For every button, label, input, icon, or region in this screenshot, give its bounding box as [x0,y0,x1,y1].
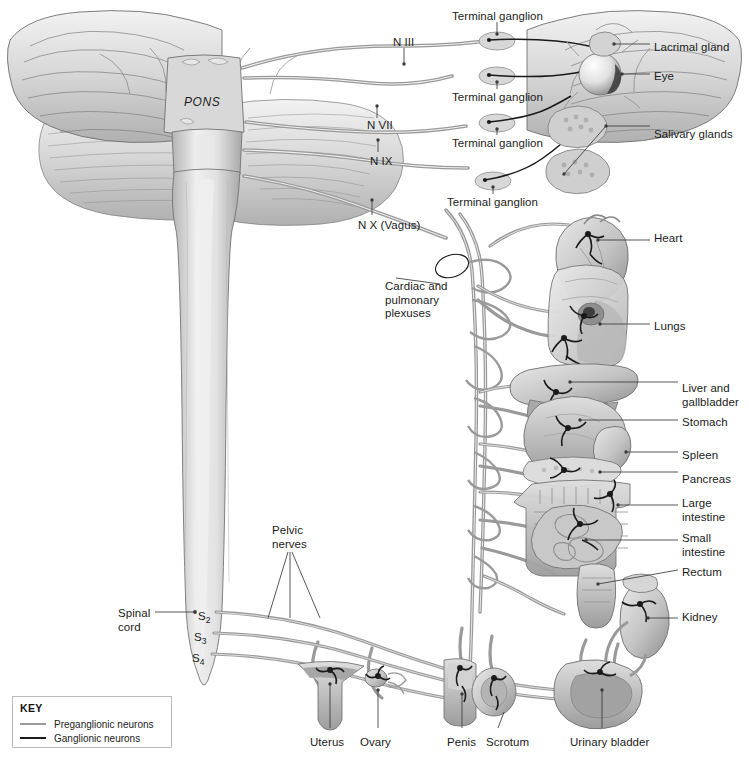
pons-label: PONS [184,96,220,110]
large-intestine-label: Large intestine [682,497,725,524]
ganglion-dots [483,38,491,182]
terminal-ganglion-label-2: Terminal ganglion [452,137,543,151]
key-legend: KEY Preganglionic neurons Ganglionic neu… [12,696,172,748]
brain-illustration [7,11,741,226]
salivary-glands-label: Salivary glands [654,128,733,142]
cranial-nerve-label-2: N IX [370,155,393,169]
spleen-label: Spleen [682,449,718,463]
ovary-label: Ovary [360,736,391,750]
spinal-segment-S3: S3 [194,631,207,649]
terminal-ganglion-label-3: Terminal ganglion [447,196,538,210]
preganglionic-label: Preganglionic neurons [54,719,154,730]
urinary-bladder-label: Urinary bladder [570,736,649,750]
ganglionic-label: Ganglionic neurons [54,733,140,744]
heart-label: Heart [654,232,682,246]
ovary-illustration [365,669,406,694]
rectum-illustration [577,564,616,628]
salivary-glands-illustration [546,106,610,194]
terminal-ganglia [475,32,515,190]
scrotum-label: Scrotum [486,736,529,750]
small-intestine-label: Small intestine [682,532,725,559]
cranial-nerve-label-1: N VII [367,119,393,133]
rectum-label: Rectum [682,566,722,580]
terminal-ganglion-label-1: Terminal ganglion [452,91,543,105]
lungs-label: Lungs [654,320,686,334]
terminal-ganglion-label-0: Terminal ganglion [452,10,543,24]
liver-gallbladder-label: Liver and gallbladder [682,382,739,409]
vagus-trunk [446,210,486,668]
eye-label: Eye [654,70,674,84]
key-entry-preganglionic: Preganglionic neurons [20,717,164,731]
lacrimal-gland-label: Lacrimal gland [654,41,730,55]
ganglionic-swatch [20,737,46,739]
figure-canvas: PONSN IIIN VIIN IXN X (Vagus)Terminal ga… [0,0,749,757]
cranial-nerve-label-0: N III [393,36,414,50]
preganglionic-swatch [20,723,46,725]
plexus-circle-annotation [432,250,471,281]
cranial-nerve-label-3: N X (Vagus) [358,219,420,233]
key-title: KEY [20,702,164,714]
key-entry-ganglionic: Ganglionic neurons [20,731,164,745]
kidney-label: Kidney [682,611,717,625]
pelvic-nerves-label: Pelvic nerves [272,524,307,551]
spinal-segment-S4: S4 [192,652,205,670]
pancreas-label: Pancreas [682,473,731,487]
cardiac-pulmonary-plexuses-label: Cardiac and pulmonary plexuses [385,280,448,321]
stomach-label: Stomach [682,416,728,430]
spinal-cord-illustration [172,169,240,685]
uterus-label: Uterus [310,736,344,750]
spinal-cord-label: Spinal cord [118,607,150,634]
anatomy-illustration [0,0,749,757]
penis-label: Penis [447,736,476,750]
spinal-segment-S2: S2 [198,610,211,628]
urinary-bladder-illustration [554,654,646,729]
lungs-illustration [548,265,628,367]
